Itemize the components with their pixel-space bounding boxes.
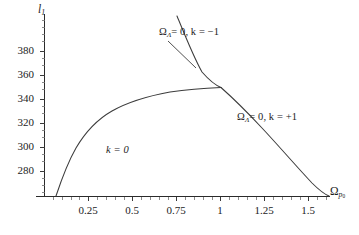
annotation-k-plus-one: ΩΛ= 0, k = +1 [237,112,297,124]
x-tick-label: 1.5 [291,205,325,216]
annotation-omega-symbol: Ω [159,26,167,37]
y-axis-title-subscript: 1 [41,8,45,17]
x-tick-label: 0.75 [159,205,193,216]
leader-line-k-minus-one [168,41,196,68]
x-axis-title: Ωp0 [330,186,345,199]
annotation-k-plus-one-text: = 0, k = +1 [249,111,297,122]
y-tick-label: 300 [4,141,34,152]
x-axis-title-subscript-index: 0 [342,193,345,199]
x-major-ticks [89,197,309,202]
y-axis-title: l1 [38,4,45,17]
y-tick-label: 380 [4,45,34,56]
annotation-k-zero: k = 0 [106,145,129,156]
x-tick-label: 0.25 [71,205,105,216]
x-tick-label: 1.25 [247,205,281,216]
y-tick-label: 340 [4,93,34,104]
y-tick-label: 280 [4,165,34,176]
x-axis-title-subscript: p0 [339,190,346,199]
x-tick-label: 1 [203,205,237,216]
figure-container: l1 Ωp0 380 360 340 320 300 280 0.25 0.5 … [0,0,359,235]
curve-k-plus-one [221,88,329,197]
x-tick-label: 0.5 [115,205,149,216]
annotation-omega-symbol: Ω [237,111,245,122]
y-tick-label: 360 [4,69,34,80]
annotation-k-minus-one: ΩΛ= 0, k = −1 [159,27,219,39]
y-major-ticks [40,52,45,172]
y-tick-label: 320 [4,117,34,128]
x-axis-title-symbol: Ω [330,185,339,197]
curve-k-zero [56,88,221,197]
annotation-k-minus-one-text: = 0, k = −1 [171,26,219,37]
